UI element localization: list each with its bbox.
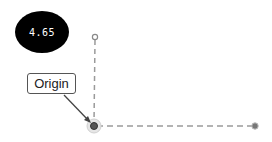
origin-handle[interactable] — [91, 123, 98, 130]
value-badge: 4.65 — [15, 11, 69, 53]
y-axis-end-handle[interactable] — [92, 34, 97, 39]
origin-label-text: Origin — [34, 76, 69, 91]
annotation-arrow — [64, 95, 89, 121]
origin-annotation-label[interactable]: Origin — [27, 73, 76, 94]
x-axis-end-handle[interactable] — [252, 123, 258, 129]
y-axis-line — [94, 40, 95, 123]
value-text: 4.65 — [29, 27, 55, 38]
